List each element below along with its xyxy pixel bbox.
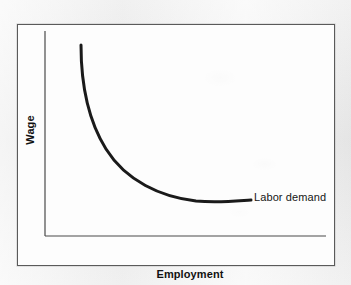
- plot-area: [18, 25, 336, 267]
- x-axis-title: Employment: [18, 268, 334, 280]
- figure-root: Wage Employment Labor demand: [0, 0, 351, 285]
- labor-demand-series-label: Labor demand: [254, 191, 326, 203]
- labor-demand-curve: [81, 45, 251, 202]
- y-axis-title-container: Wage: [22, 90, 38, 170]
- y-axis-title: Wage: [24, 115, 36, 144]
- chart-frame: Wage Employment Labor demand: [17, 24, 335, 266]
